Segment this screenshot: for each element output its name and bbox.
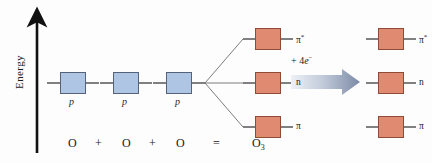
correlation-lines (205, 39, 243, 127)
reaction-arrow-caption-prefix: + 4 (291, 55, 304, 66)
mo-label-right-pi: π (419, 121, 424, 131)
reaction-arrow-caption: + 4e− (291, 54, 313, 66)
equation-term-o-2: O (122, 136, 131, 151)
mo-box-right-n[interactable] (378, 72, 404, 94)
mo-label-left-n: n (296, 77, 301, 87)
mo-box-right-pi[interactable] (378, 116, 404, 138)
mo-label-right-pi-star: π* (419, 33, 427, 45)
mo-label-left-pi-star-sup: * (301, 33, 305, 41)
equation-term-o-3: O (176, 136, 185, 151)
mo-diagram-figure: Energy p p p π* n π π* n π + 4e− O + O +… (0, 0, 432, 163)
reaction-arrow-caption-superscript: − (309, 54, 313, 62)
mo-box-left-n[interactable] (255, 72, 281, 94)
mo-label-right-pi-text: π (419, 121, 424, 131)
mo-label-right-pi-star-sup: * (424, 33, 428, 41)
mo-box-left-pi-star[interactable] (255, 28, 281, 50)
equation-term-ozone-sub: 3 (261, 143, 265, 152)
atomic-orbital-box-1[interactable] (60, 72, 86, 94)
atomic-orbital-label-3: p (175, 96, 180, 107)
mo-label-right-n: n (419, 77, 424, 87)
equation-term-ozone: O3 (252, 136, 265, 152)
mo-box-left-pi[interactable] (255, 116, 281, 138)
atomic-orbital-label-1: p (69, 96, 74, 107)
equation-term-ozone-text: O (252, 136, 261, 150)
mo-label-left-pi-star: π* (296, 33, 304, 45)
equation-plus-2: + (149, 136, 156, 151)
mo-label-right-n-text: n (419, 77, 424, 87)
mo-box-right-pi-star[interactable] (378, 28, 404, 50)
mo-label-left-n-text: n (296, 77, 301, 87)
mo-label-left-pi-text: π (296, 121, 301, 131)
atomic-orbital-box-2[interactable] (113, 72, 139, 94)
reaction-arrow (291, 69, 360, 95)
atomic-orbital-label-2: p (122, 96, 127, 107)
energy-axis-label: Energy (13, 42, 25, 102)
atomic-orbital-box-3[interactable] (166, 72, 192, 94)
equation-plus-1: + (95, 136, 102, 151)
equation-term-o-1: O (68, 136, 77, 151)
mo-label-left-pi: π (296, 121, 301, 131)
equation-equals: = (213, 136, 220, 151)
